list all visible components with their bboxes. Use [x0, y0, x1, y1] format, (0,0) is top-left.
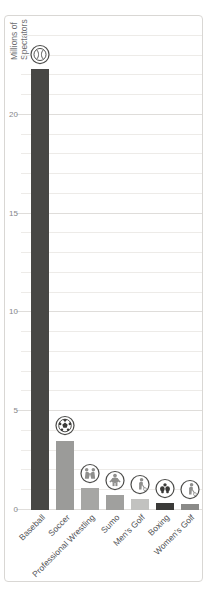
- bar-column-professional-wrestling: Professional Wrestling: [78, 16, 103, 510]
- bar-men-s-golf: [131, 499, 149, 510]
- boxing-icon: [154, 478, 175, 499]
- golf-icon: [129, 474, 150, 495]
- bar-column-sumo: Sumo: [103, 16, 128, 510]
- bar-boxing: [156, 503, 174, 510]
- bar-column-men-s-golf: Men's Golf: [127, 16, 152, 510]
- category-label-sumo: Sumo: [99, 513, 121, 535]
- baseball-icon: [30, 44, 51, 65]
- chart-frame: Millions of Spectators 05101520BaseballS…: [4, 15, 203, 582]
- wrestling-icon: [80, 463, 101, 484]
- bars-container: BaseballSoccerProfessional WrestlingSumo…: [28, 16, 202, 510]
- bar-sumo: [106, 495, 124, 510]
- bar-soccer: [56, 441, 74, 510]
- y-tick-label: 10: [4, 307, 18, 316]
- spectators-bar-chart: Millions of Spectators 05101520BaseballS…: [0, 0, 211, 590]
- golf-icon: [179, 479, 200, 500]
- y-tick-label: 0: [4, 505, 18, 514]
- category-label-baseball: Baseball: [17, 513, 46, 542]
- y-tick-label: 5: [4, 406, 18, 415]
- y-tick-label: 15: [4, 209, 18, 218]
- bar-professional-wrestling: [81, 488, 99, 510]
- y-tick-label: 20: [4, 110, 18, 119]
- bar-column-women-s-golf: Women's Golf: [177, 16, 202, 510]
- bar-column-boxing: Boxing: [152, 16, 177, 510]
- soccer-ball-icon: [55, 415, 76, 436]
- bar-column-soccer: Soccer: [53, 16, 78, 510]
- plot-area: 05101520BaseballSoccerProfessional Wrest…: [21, 16, 202, 510]
- y-axis-title-line1: Millions of: [9, 19, 19, 60]
- bar-baseball: [31, 69, 49, 510]
- bar-women-s-golf: [181, 504, 199, 510]
- sumo-icon: [105, 470, 126, 491]
- bar-column-baseball: Baseball: [28, 16, 53, 510]
